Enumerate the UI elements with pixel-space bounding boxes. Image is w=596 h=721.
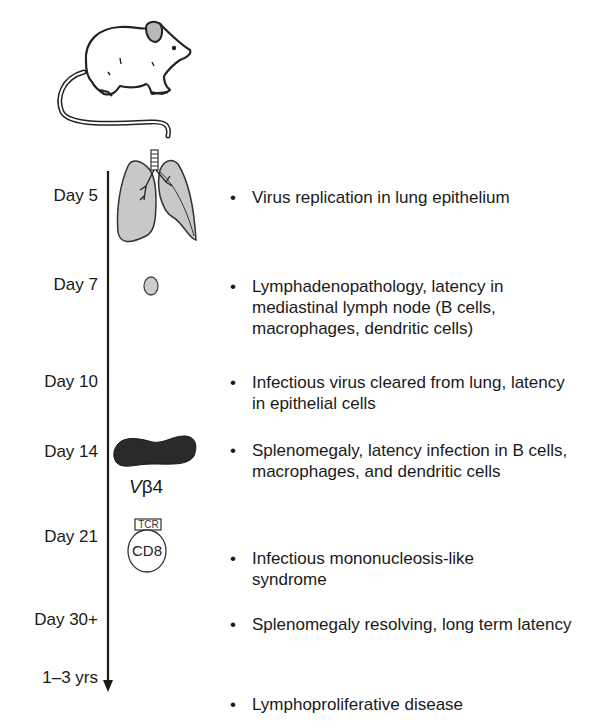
description-text: Infectious mononucleosis-like syndrome	[252, 549, 474, 589]
day-label-1-3-yrs: 1–3 yrs	[42, 668, 98, 688]
description-day-21: • Infectious mononucleosis-like syndrome	[228, 548, 542, 590]
description-text: Infectious virus cleared from lung, late…	[252, 373, 565, 413]
description-day-14: • Splenomegaly, latency infection in B c…	[228, 440, 582, 482]
day-label-14: Day 14	[44, 442, 98, 462]
day-label-21: Day 21	[44, 527, 98, 547]
description-day-30-plus: • Splenomegaly resolving, long term late…	[228, 614, 582, 635]
description-text: Splenomegaly, latency infection in B cel…	[252, 441, 567, 481]
day-label-10: Day 10	[44, 372, 98, 392]
description-text: Splenomegaly resolving, long term latenc…	[252, 615, 571, 634]
description-day-7: • Lymphadenopathology, latency in medias…	[228, 276, 572, 339]
cd8-label: CD8	[128, 542, 166, 559]
tcr-label: TCR	[136, 519, 161, 530]
description-text: Lymphoproliferative disease	[252, 695, 463, 714]
day-label-5: Day 5	[54, 186, 98, 206]
description-text: Virus replication in lung epithelium	[252, 188, 510, 207]
bullet-icon: •	[230, 187, 236, 208]
day-label-7: Day 7	[54, 275, 98, 295]
description-text: Lymphadenopathology, latency in mediasti…	[252, 277, 503, 338]
bullet-icon: •	[230, 614, 236, 635]
bullet-icon: •	[230, 694, 236, 715]
bullet-icon: •	[230, 548, 236, 569]
description-1-3-yrs: • Lymphoproliferative disease	[228, 694, 596, 715]
bullet-icon: •	[230, 440, 236, 461]
description-day-10: • Infectious virus cleared from lung, la…	[228, 372, 572, 414]
day-label-30-plus: Day 30+	[34, 610, 98, 630]
bullet-icon: •	[230, 276, 236, 297]
bullet-icon: •	[230, 372, 236, 393]
description-day-5: • Virus replication in lung epithelium	[228, 187, 596, 208]
